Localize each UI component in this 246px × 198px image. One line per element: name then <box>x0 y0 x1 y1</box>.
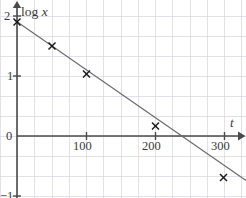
data-point-markers <box>14 19 228 182</box>
data-point-marker <box>220 174 227 181</box>
x-axis-tick-label-100: 100 <box>73 140 92 153</box>
y-axis <box>13 1 21 198</box>
x-axis-title: t <box>230 116 234 129</box>
grid-horizontal-lines <box>0 16 246 196</box>
y-axis-tick-label-1: 1 <box>7 70 13 83</box>
chart-figure: 2 1 0 −1 100 200 300 log x t <box>0 0 246 198</box>
chart-plot-area <box>0 0 246 198</box>
x-axis-tick-label-300: 300 <box>211 140 230 153</box>
y-axis-tick-label-minus-1: −1 <box>0 190 13 198</box>
x-axis-tick-label-200: 200 <box>142 140 161 153</box>
y-axis-title: log x <box>21 5 48 19</box>
y-axis-title-prefix: log <box>21 4 42 19</box>
y-axis-tick-label-2: 2 <box>4 10 10 23</box>
y-axis-tick-label-0: 0 <box>6 130 12 143</box>
y-axis-title-variable: x <box>42 4 48 19</box>
grid-vertical-lines <box>0 0 242 198</box>
